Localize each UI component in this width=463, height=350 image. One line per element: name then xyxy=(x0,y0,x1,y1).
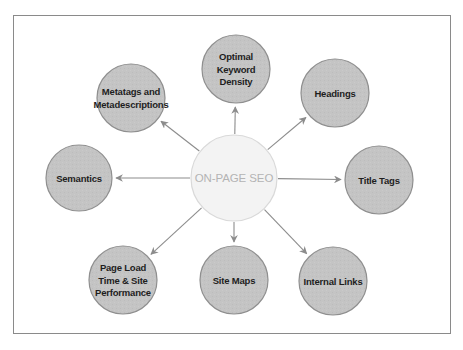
node-internal-links: Internal Links xyxy=(299,247,367,315)
on-page-seo-diagram: OptimalKeywordDensityHeadingsTitle TagsI… xyxy=(0,0,463,350)
center-node: ON-PAGE SEO xyxy=(191,135,277,221)
node-optimal-keyword-density: OptimalKeywordDensity xyxy=(202,35,270,103)
arrow-to-headings xyxy=(268,118,306,150)
node-label: Performance xyxy=(95,287,151,298)
node-label: Time & Site xyxy=(98,275,147,286)
node-semantics: Semantics xyxy=(46,145,112,211)
node-label: Semantics xyxy=(56,173,102,184)
node-label: Internal Links xyxy=(304,276,363,287)
arrow-to-metatags xyxy=(161,121,199,151)
node-label: Headings xyxy=(314,88,355,99)
arrow-to-title-tags xyxy=(278,179,341,180)
node-label: Keyword xyxy=(217,64,256,75)
node-page-load-time: Page LoadTime & SitePerformance xyxy=(89,246,157,314)
node-site-maps: Site Maps xyxy=(200,246,268,314)
node-label: Page Load xyxy=(100,262,147,273)
arrow-to-optimal-keyword-density xyxy=(235,107,236,134)
node-metatags: Metatags andMetadescriptions xyxy=(94,64,169,132)
arrow-to-page-load-time xyxy=(151,208,202,255)
node-title-tags: Title Tags xyxy=(345,146,413,214)
center-label: ON-PAGE SEO xyxy=(195,172,274,184)
node-label: Site Maps xyxy=(213,275,256,286)
node-label: Title Tags xyxy=(358,175,399,186)
node-label: Optimal xyxy=(219,51,253,62)
node-headings: Headings xyxy=(301,59,369,127)
node-label: Metatags and xyxy=(102,86,161,97)
node-label: Metadescriptions xyxy=(94,99,169,110)
node-label: Density xyxy=(220,76,254,87)
arrow-to-internal-links xyxy=(265,210,307,254)
